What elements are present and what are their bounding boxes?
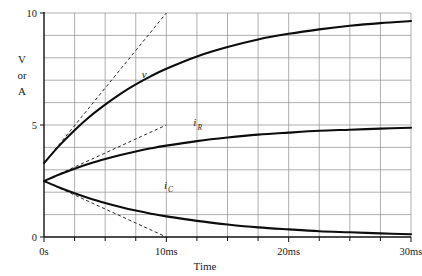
x-tick-label-20ms: 20ms: [277, 246, 300, 257]
tick-labels-layer: 05100s10ms20ms30ms: [27, 8, 422, 257]
annotation-v-base: v: [142, 68, 147, 80]
annotation-i_R: iR: [193, 116, 202, 131]
y-tick-label-5: 5: [32, 120, 37, 131]
y-axis-title-line-1: V: [18, 53, 26, 65]
y-tick-label-0: 0: [32, 232, 37, 243]
y-axis-title-line-2: or: [17, 69, 27, 81]
annotation-i_C-base: i: [164, 179, 167, 191]
x-tick-label-30ms: 30ms: [400, 246, 422, 257]
annotation-i_C-subscript: C: [168, 185, 174, 194]
x-tick-label-10ms: 10ms: [155, 246, 178, 257]
chart-container: 05100s10ms20ms30ms viRiC V or A Time: [0, 0, 422, 276]
y-axis-title-line-3: A: [18, 85, 26, 97]
y-tick-label-10: 10: [27, 8, 38, 19]
curve-annotations-layer: viRiC: [142, 68, 203, 194]
axis-layer: [40, 12, 411, 242]
rc-transient-plot: 05100s10ms20ms30ms viRiC V or A Time: [0, 0, 422, 276]
x-tick-label-0s: 0s: [39, 246, 48, 257]
annotation-i_R-base: i: [193, 116, 196, 128]
annotation-i_R-subscript: R: [196, 123, 202, 132]
x-axis-title: Time: [194, 260, 217, 272]
annotation-v: v: [142, 68, 147, 80]
